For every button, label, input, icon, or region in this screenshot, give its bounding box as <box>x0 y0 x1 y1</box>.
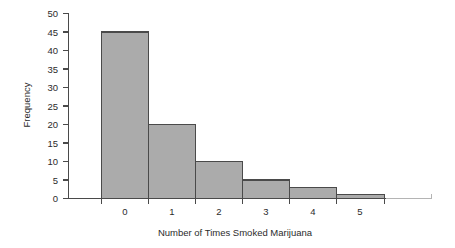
x-tick-label-1: 1 <box>169 206 174 217</box>
y-axis-title: Frequency <box>21 82 32 127</box>
y-tick-label-50: 50 <box>47 8 58 19</box>
bar-2[interactable] <box>196 162 243 199</box>
x-tick-label-0: 0 <box>122 206 127 217</box>
histogram-chart: 50 45 40 35 30 25 20 15 10 5 0 Frequency <box>0 0 455 248</box>
x-tick-label-3: 3 <box>263 206 268 217</box>
x-tick-label-5: 5 <box>357 206 362 217</box>
y-tick-label-20: 20 <box>47 119 58 130</box>
y-tick-label-35: 35 <box>47 64 58 75</box>
x-tick-label-4: 4 <box>310 206 315 217</box>
y-tick-label-10: 10 <box>47 156 58 167</box>
y-tick-label-15: 15 <box>47 138 58 149</box>
bar-0[interactable] <box>102 32 149 199</box>
y-tick-label-40: 40 <box>47 45 58 56</box>
bar-5[interactable] <box>337 195 385 199</box>
y-tick-label-45: 45 <box>47 27 58 38</box>
y-tick-label-30: 30 <box>47 82 58 93</box>
x-axis-title: Number of Times Smoked Marijuana <box>158 227 313 238</box>
bar-4[interactable] <box>290 187 337 198</box>
y-tick-label-5: 5 <box>53 175 58 186</box>
y-tick-label-0: 0 <box>53 193 58 204</box>
bar-3[interactable] <box>243 180 290 199</box>
y-tick-label-25: 25 <box>47 101 58 112</box>
x-tick-label-2: 2 <box>216 206 221 217</box>
bar-1[interactable] <box>149 125 196 199</box>
chart-canvas: 50 45 40 35 30 25 20 15 10 5 0 Frequency <box>0 0 455 248</box>
